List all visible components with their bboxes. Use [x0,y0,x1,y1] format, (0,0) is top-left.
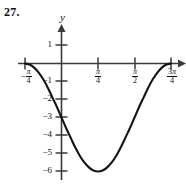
y-axis-label: y [60,12,65,23]
y-tick-label--3: −3 [32,112,52,121]
y-tick-label-1: 1 [36,40,52,49]
y-tick-label--1: −1 [32,76,52,85]
y-tick-label--6: −6 [32,166,52,175]
x-tick-label-3pi-4: 3π4 [159,68,185,85]
figure-container: 27. y −π4 π4 π2 3π4 1 −1 [0,0,186,184]
problem-number: 27. [4,6,20,18]
x-tick-label-pi-4: π4 [88,68,108,85]
trig-graph-plot [0,0,186,184]
x-axis-arrow-icon [178,60,186,68]
x-tick-label-pi-2: π2 [125,68,145,85]
y-axis-arrow-icon [58,24,66,32]
y-tick-label--4: −4 [32,130,52,139]
y-tick-label--5: −5 [32,148,52,157]
y-tick-label--2: −2 [32,94,52,103]
